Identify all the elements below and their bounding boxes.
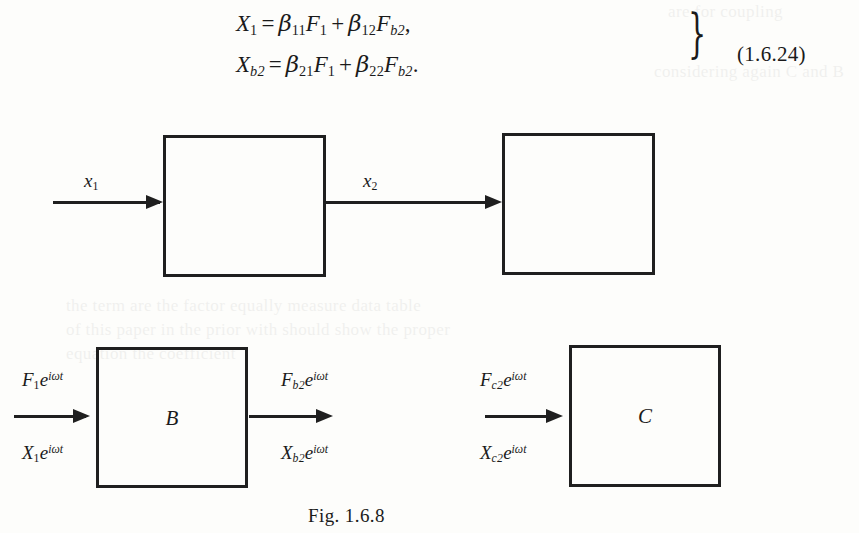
b-out-force-exp-base: e: [305, 369, 313, 390]
eq2-lhs-var: X: [236, 52, 250, 77]
eq2-term2-var-sub: b2: [398, 63, 413, 79]
c-in-disp-exp: iωt: [512, 443, 527, 456]
b-out-force-exp: iωt: [313, 370, 328, 383]
eq1-term1-coef: β: [278, 10, 291, 36]
scanned-page: are for coupling considering again C and…: [0, 0, 859, 533]
c-in-force-exp: iωt: [512, 370, 527, 383]
b-in-disp-exp-base: e: [40, 442, 48, 463]
equation-line-2: Xb2=β21F1+β22Fb2.: [236, 47, 418, 88]
arrow-line-x1: [53, 201, 160, 204]
b-in-force-exp: iωt: [48, 370, 63, 383]
signal-x1-sub: 1: [92, 180, 98, 193]
signal-b-output-displacement-label: Xb2eiωt: [281, 442, 328, 466]
b-in-force-var: F: [22, 369, 34, 390]
signal-b-input-force-label: F1eiωt: [22, 369, 63, 393]
equation-number: (1.6.24): [737, 42, 806, 67]
eq1-plus: +: [327, 11, 348, 36]
signal-b-output-force-label: Fb2eiωt: [281, 369, 328, 393]
box-c-label: C: [638, 404, 652, 429]
box-b: B: [96, 347, 248, 488]
eq1-term2-coef-sub: 12: [361, 22, 376, 38]
eq2-term2-coef-sub: 22: [369, 63, 384, 79]
figure-caption: Fig. 1.6.8: [308, 505, 385, 527]
eq2-term1-coef: β: [286, 51, 299, 77]
b-in-force-exp-base: e: [40, 369, 48, 390]
c-in-force-exp-base: e: [503, 369, 511, 390]
ghost-text-mid-left-2: of this paper in the prior with should s…: [66, 320, 450, 340]
c-in-disp-var: X: [480, 442, 492, 463]
signal-x2-label: x2: [363, 170, 378, 194]
b-out-force-sub: b2: [293, 379, 305, 392]
arrow-head-c-input: [546, 409, 563, 423]
arrow-head-x2: [485, 195, 502, 209]
equation-lines: X1=β11F1+β12Fb2, Xb2=β21F1+β22Fb2. }: [236, 6, 418, 88]
arrow-head-x1: [146, 195, 163, 209]
eq1-term2-var-sub: b2: [390, 22, 405, 38]
eq2-term1-coef-sub: 21: [299, 63, 314, 79]
c-in-force-sub: c2: [492, 379, 504, 392]
b-out-disp-exp: iωt: [313, 443, 328, 456]
ghost-text-top-right: are for coupling: [668, 2, 783, 22]
c-in-force-var: F: [480, 369, 492, 390]
eq1-terminator: ,: [405, 11, 411, 36]
eq1-term1-coef-sub: 11: [292, 22, 306, 38]
signal-x2-sub: 2: [371, 180, 377, 193]
signal-c-input-displacement-label: Xc2eiωt: [480, 442, 526, 466]
eq2-lhs-sub: b2: [250, 63, 265, 79]
eq1-term1-var: F: [306, 11, 320, 36]
c-in-disp-exp-base: e: [503, 442, 511, 463]
eq2-term2-coef: β: [356, 51, 369, 77]
arrow-line-x2: [326, 201, 486, 204]
b-out-disp-var: X: [281, 442, 293, 463]
arrow-head-b-input: [73, 409, 90, 423]
signal-x1-label: x1: [84, 170, 99, 194]
eq2-term1-var: F: [314, 52, 328, 77]
eq2-term1-var-sub: 1: [328, 63, 335, 79]
equation-brace: }: [688, 4, 706, 62]
eq2-terminator: .: [413, 52, 419, 77]
signal-b-input-displacement-label: X1eiωt: [22, 442, 63, 466]
signal-c-input-force-label: Fc2eiωt: [480, 369, 526, 393]
box-2: [502, 133, 655, 275]
arrow-head-b-output: [316, 409, 333, 423]
b-in-disp-var: X: [22, 442, 34, 463]
b-out-disp-exp-base: e: [305, 442, 313, 463]
box-b-label: B: [166, 405, 179, 430]
eq2-equals: =: [265, 52, 286, 77]
eq1-term2-coef: β: [348, 10, 361, 36]
b-out-disp-sub: b2: [293, 452, 305, 465]
eq1-lhs-var: X: [236, 11, 250, 36]
eq1-equals: =: [257, 11, 278, 36]
eq2-term2-var: F: [384, 52, 398, 77]
ghost-text-mid-left: the term are the factor equally measure …: [66, 296, 421, 316]
eq1-term2-var: F: [376, 11, 390, 36]
eq2-plus: +: [335, 52, 356, 77]
c-in-disp-sub: c2: [492, 452, 504, 465]
equation-line-1: X1=β11F1+β12Fb2,: [236, 6, 418, 47]
box-1: [163, 135, 326, 277]
b-in-disp-exp: iωt: [48, 443, 63, 456]
box-c: C: [569, 345, 721, 487]
b-out-force-var: F: [281, 369, 293, 390]
